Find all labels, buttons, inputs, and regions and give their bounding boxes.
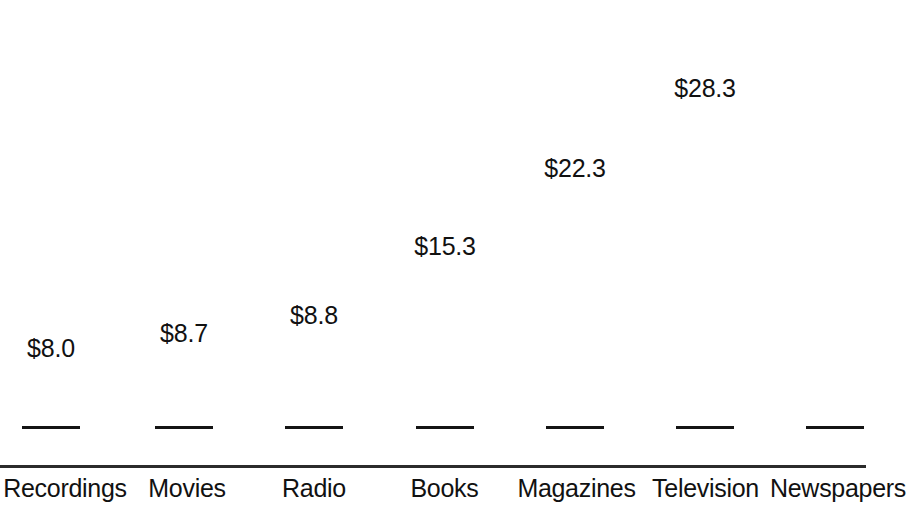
bar-rect-newspapers [806,426,864,429]
x-axis-labels: Recordings Movies Radio Books Magazines … [0,472,893,506]
x-label-radio: Radio [268,472,360,505]
x-label-books: Books [396,472,493,505]
bar-rect-books [416,426,474,429]
bar-rect-movies [155,426,213,429]
x-axis-line [0,465,866,468]
bar-recordings[interactable]: $8.0 [22,367,80,429]
bar-rect-television [676,426,734,429]
bar-value-television: $28.3 [674,74,736,102]
bar-rect-recordings [22,426,80,429]
bar-value-magazines: $22.3 [544,154,606,182]
bar-movies[interactable]: $8.7 [155,352,213,429]
bar-value-recordings: $8.0 [27,334,75,362]
bar-rect-radio [285,426,343,429]
bar-value-movies: $8.7 [160,319,208,347]
bar-radio[interactable]: $8.8 [285,334,343,429]
x-label-recordings: Recordings [0,472,133,505]
x-label-magazines: Magazines [514,472,639,505]
x-label-movies: Movies [131,472,243,505]
bar-television[interactable]: $28.3 [676,107,734,429]
x-label-newspapers: Newspapers [768,472,908,505]
bar-newspapers[interactable]: $33.6 [806,0,864,429]
bar-books[interactable]: $15.3 [416,265,474,429]
bar-magazines[interactable]: $22.3 [546,187,604,429]
bar-rect-magazines [546,426,604,429]
bar-value-books: $15.3 [414,232,476,260]
x-label-television: Television [644,472,767,505]
bar-value-radio: $8.8 [290,301,338,329]
plot-area: $8.0 $8.7 $8.8 $15.3 $22.3 $28.3 [0,0,893,470]
